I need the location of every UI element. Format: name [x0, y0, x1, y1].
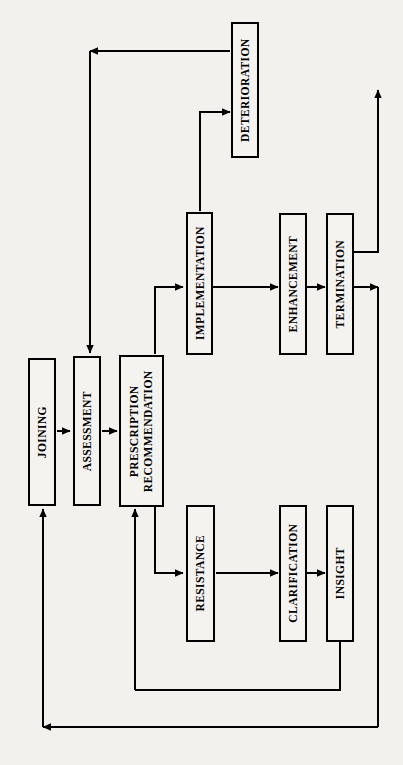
edge-implementation-deterioration: [200, 112, 230, 211]
node-prescription-recommendation-label: PRESCRIPTION RECOMMENDATION: [127, 370, 156, 492]
node-assessment[interactable]: ASSESSMENT: [73, 356, 101, 506]
edge-insight-return-rail: [135, 642, 340, 690]
node-clarification[interactable]: CLARIFICATION: [279, 505, 307, 642]
node-termination-label: TERMINATION: [333, 240, 347, 329]
node-insight[interactable]: INSIGHT: [326, 505, 354, 642]
node-enhancement-label: ENHANCEMENT: [286, 236, 300, 332]
edge-prescription-resistance: [155, 507, 183, 573]
node-joining[interactable]: JOINING: [28, 358, 56, 506]
flowchart-connectors: [0, 0, 403, 765]
node-enhancement[interactable]: ENHANCEMENT: [279, 213, 307, 355]
node-prescription-recommendation[interactable]: PRESCRIPTION RECOMMENDATION: [119, 355, 164, 507]
flowchart-canvas: JOINING ASSESSMENT PRESCRIPTION RECOMMEN…: [0, 0, 403, 765]
node-implementation[interactable]: IMPLEMENTATION: [186, 212, 213, 355]
node-resistance[interactable]: RESISTANCE: [186, 505, 215, 642]
node-clarification-label: CLARIFICATION: [286, 524, 300, 623]
node-termination[interactable]: TERMINATION: [326, 213, 354, 355]
node-deterioration-label: DETERIORATION: [238, 38, 252, 141]
node-implementation-label: IMPLEMENTATION: [192, 227, 206, 341]
node-deterioration[interactable]: DETERIORATION: [231, 22, 259, 158]
edge-prescription-implementation: [155, 287, 183, 354]
node-resistance-label: RESISTANCE: [193, 535, 207, 612]
node-insight-label: INSIGHT: [333, 547, 347, 599]
edge-termination-exit-up: [354, 90, 378, 252]
node-assessment-label: ASSESSMENT: [80, 391, 94, 471]
node-joining-label: JOINING: [35, 406, 49, 458]
